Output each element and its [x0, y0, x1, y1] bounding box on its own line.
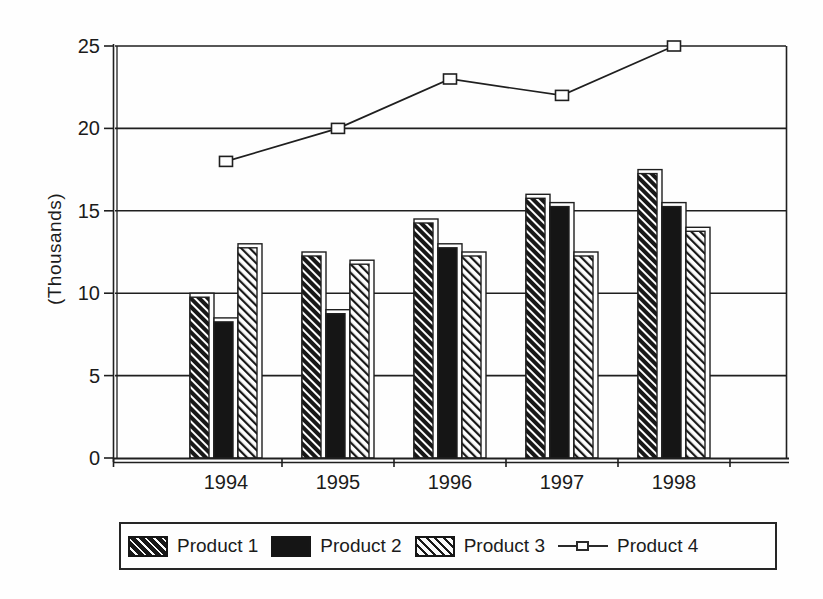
- legend-label-product-2: Product 2: [320, 535, 401, 557]
- bar-product-2-1995: [326, 310, 350, 458]
- bar-product-2-1998: [662, 203, 686, 458]
- bar-product-3-1998: [686, 227, 710, 458]
- bar-product-1-1998: [638, 170, 662, 458]
- product-3-hatch-swatch-icon: [415, 536, 455, 557]
- legend-item-product-2: Product 2: [271, 535, 401, 557]
- line-series-product-4: [226, 46, 674, 161]
- y-tick-label-5: 5: [89, 365, 100, 387]
- marker-open-square-1997: [556, 90, 569, 100]
- bar-product-1-1995: [302, 252, 326, 458]
- bar-product-3-1994: [238, 244, 262, 458]
- bar-product-2-1994: [214, 318, 238, 458]
- bar-product-1-1994: [190, 293, 214, 458]
- marker-open-square-1994: [220, 156, 233, 166]
- x-category-label-1997: 1997: [540, 471, 585, 493]
- y-tick-label-0: 0: [89, 447, 100, 469]
- legend-item-product-1: Product 1: [128, 535, 258, 557]
- x-category-label-1996: 1996: [428, 471, 473, 493]
- bar-product-3-1996: [462, 252, 486, 458]
- legend-item-product-4: Product 4: [558, 535, 698, 557]
- bar-product-3-1997: [574, 252, 598, 458]
- x-category-label-1998: 1998: [652, 471, 697, 493]
- chart-canvas: 051015202519941995199619971998: [0, 0, 823, 599]
- legend-label-product-4: Product 4: [617, 535, 698, 557]
- bar-product-1-1997: [526, 194, 550, 458]
- product-2-solid-swatch-icon: [271, 536, 311, 557]
- scanned-chart-page: 051015202519941995199619971998 (Thousand…: [0, 0, 823, 599]
- y-tick-label-15: 15: [78, 200, 100, 222]
- y-tick-label-20: 20: [78, 117, 100, 139]
- marker-open-square-1996: [444, 74, 457, 84]
- bar-product-3-1995: [350, 260, 374, 458]
- legend: Product 1 Product 2 Product 3 Product 4: [119, 522, 777, 570]
- marker-open-square-1998: [668, 41, 681, 51]
- bar-product-2-1997: [550, 203, 574, 458]
- y-tick-label-10: 10: [78, 282, 100, 304]
- bar-product-1-1996: [414, 219, 438, 458]
- y-axis-title: (Thousands): [44, 193, 66, 305]
- marker-open-square-1995: [332, 123, 345, 133]
- bar-product-2-1996: [438, 244, 462, 458]
- legend-label-product-3: Product 3: [464, 535, 545, 557]
- x-category-label-1994: 1994: [204, 471, 249, 493]
- product-1-hatch-swatch-icon: [128, 536, 168, 557]
- x-category-label-1995: 1995: [316, 471, 361, 493]
- legend-label-product-1: Product 1: [177, 535, 258, 557]
- legend-item-product-3: Product 3: [415, 535, 545, 557]
- y-tick-label-25: 25: [78, 35, 100, 57]
- line-with-square-marker-icon: [558, 540, 608, 552]
